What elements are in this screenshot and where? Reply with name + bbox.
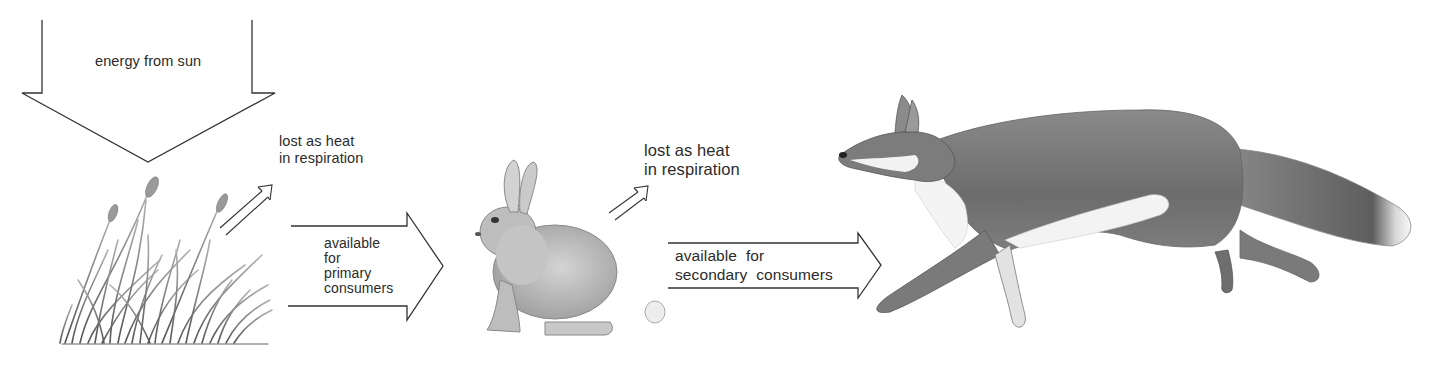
sun-energy-label: energy from sun <box>95 53 201 70</box>
heat-loss-label-1: lost as heat in respiration <box>279 133 363 167</box>
grass-seedheads <box>106 175 230 223</box>
grass-illustration <box>60 188 272 344</box>
primary-consumers-label: available for primary consumers <box>324 236 393 296</box>
energy-flow-diagram <box>0 0 1436 365</box>
sun-energy-arrow <box>22 20 275 162</box>
heat-loss-label-2: lost as heat in respiration <box>644 141 740 179</box>
secondary-consumers-label: available for secondary consumers <box>675 246 833 284</box>
rabbit-illustration <box>475 160 665 335</box>
heat-loss-arrow-2 <box>609 186 648 220</box>
heat-loss-arrow-1 <box>220 185 272 235</box>
fox-illustration <box>839 95 1411 327</box>
